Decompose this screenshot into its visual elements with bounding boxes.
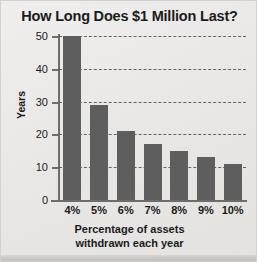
x-axis-title: Percentage of assets withdrawn each year (1, 223, 257, 250)
chart-title: How Long Does $1 Million Last? (1, 8, 257, 24)
y-tick-label: 50 (21, 30, 48, 42)
chart-card: How Long Does $1 Million Last? Years 010… (0, 0, 257, 262)
y-tick-label: 40 (21, 63, 48, 75)
y-tick-label: 0 (21, 194, 48, 206)
bar (197, 157, 215, 200)
gridline (59, 102, 246, 103)
x-tick-label: 8% (164, 204, 194, 216)
bar (224, 164, 242, 200)
y-tick-label: 30 (21, 96, 48, 108)
x-tick-label: 5% (84, 204, 114, 216)
y-tick-mark (52, 102, 59, 104)
bar (144, 144, 162, 200)
x-tick-label: 7% (138, 204, 168, 216)
y-tick-mark (52, 69, 59, 71)
x-axis-title-line-1: Percentage of assets (1, 223, 257, 237)
x-tick-label: 9% (191, 204, 221, 216)
y-tick-mark (52, 167, 59, 169)
bar (117, 131, 135, 200)
y-tick-label: 20 (21, 128, 48, 140)
x-tick-label: 10% (218, 204, 248, 216)
bar (63, 36, 81, 200)
x-axis-title-line-2: withdrawn each year (1, 237, 257, 251)
gridline (59, 69, 246, 70)
x-tick-label: 6% (111, 204, 141, 216)
gridline (59, 134, 246, 135)
y-tick-label: 10 (21, 161, 48, 173)
x-axis-line (51, 200, 247, 202)
y-tick-mark (52, 134, 59, 136)
gridline (59, 36, 246, 37)
plot-area (59, 36, 246, 200)
bar (90, 105, 108, 200)
y-tick-mark (52, 200, 59, 202)
y-tick-mark (52, 36, 59, 38)
bar (170, 151, 188, 200)
x-tick-label: 4% (57, 204, 87, 216)
